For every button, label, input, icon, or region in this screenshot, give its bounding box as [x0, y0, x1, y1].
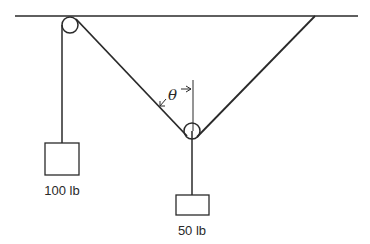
left-diagonal-rope [76, 19, 187, 136]
weight-box-100lb [45, 143, 79, 175]
theta-label: θ [168, 86, 177, 104]
right-diagonal-rope [197, 16, 315, 137]
weight-label-50lb: 50 lb [178, 223, 206, 238]
weight-box-50lb [176, 195, 209, 215]
pulley-diagram: 100 lb θ 50 lb [0, 0, 370, 244]
weight-label-100lb: 100 lb [44, 183, 79, 198]
